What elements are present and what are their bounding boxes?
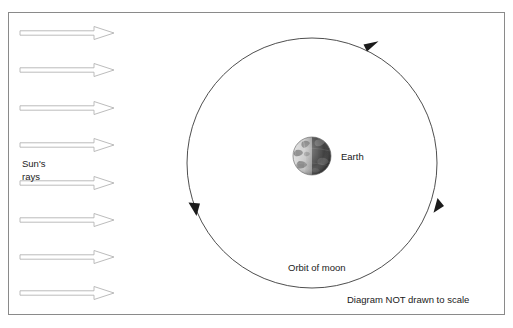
diagram-frame (9, 13, 505, 315)
earth-label: Earth (341, 151, 364, 162)
earth-globe (292, 137, 331, 175)
sun-rays-label-line2: rays (22, 171, 40, 182)
sun-ray-arrow (20, 287, 114, 300)
sun-ray-arrow (20, 139, 114, 152)
moon-orbit-diagram: Sun's rays Earth Orbit of moon Diagram N… (0, 0, 513, 328)
scale-note-label: Diagram NOT drawn to scale (347, 294, 469, 305)
sun-ray-arrow (20, 102, 114, 115)
orbit-of-moon-label: Orbit of moon (288, 262, 346, 273)
sun-ray-arrow (20, 27, 114, 40)
sun-ray-arrow (20, 251, 114, 264)
sun-ray-arrow (20, 214, 114, 227)
sun-ray-arrow (20, 64, 114, 77)
orbit-arrow-right (434, 198, 445, 213)
sun-rays-label-line1: Sun's (22, 158, 46, 169)
diagram-canvas: Sun's rays Earth Orbit of moon Diagram N… (0, 0, 513, 328)
